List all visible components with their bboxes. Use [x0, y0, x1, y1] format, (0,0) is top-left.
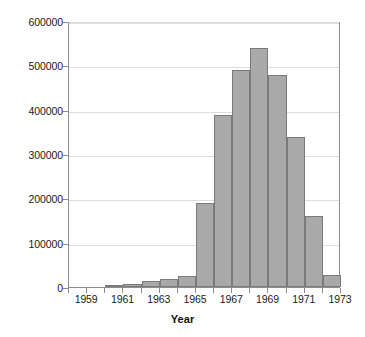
gridline-400000: [69, 112, 339, 113]
y-tick-label: 300000: [29, 150, 63, 161]
bar-chart: 0100000200000300000400000500000600000 19…: [0, 0, 365, 337]
bar-1969: [268, 75, 286, 287]
bar-1967: [232, 70, 250, 287]
x-tick-mark: [213, 288, 214, 293]
bar-1960: [105, 285, 123, 287]
x-tick-label: 1963: [147, 294, 170, 305]
x-axis-title: Year: [0, 313, 365, 325]
x-tick-label: 1965: [183, 294, 206, 305]
x-tick-mark: [177, 288, 178, 293]
y-tick-label: 500000: [29, 61, 63, 72]
x-tick-mark: [249, 288, 250, 293]
bar-1965: [196, 203, 214, 287]
y-tick-label: 200000: [29, 194, 63, 205]
bar-1968: [250, 48, 268, 287]
x-tick-label: 1969: [256, 294, 279, 305]
x-tick-mark: [286, 288, 287, 293]
x-tick-label: 1961: [111, 294, 134, 305]
x-tick-label: 1973: [329, 294, 352, 305]
x-tick-mark: [322, 288, 323, 293]
plot-area: [68, 22, 340, 288]
bar-1971: [305, 216, 323, 287]
y-tick-label: 400000: [29, 106, 63, 117]
y-tick-label: 100000: [29, 239, 63, 250]
x-tick-mark: [141, 288, 142, 293]
x-tick-label: 1971: [292, 294, 315, 305]
bar-1964: [178, 276, 196, 287]
x-tick-label: 1959: [75, 294, 98, 305]
bar-1963: [160, 279, 178, 287]
x-tick-mark: [68, 288, 69, 293]
y-tick-label: 600000: [29, 17, 63, 28]
gridline-600000: [69, 23, 339, 24]
bar-1966: [214, 115, 232, 287]
gridline-500000: [69, 67, 339, 68]
bar-1961: [123, 284, 141, 287]
bar-1972: [323, 275, 341, 287]
bar-1962: [142, 281, 160, 287]
x-tick-mark: [104, 288, 105, 293]
bar-1970: [287, 137, 305, 287]
x-tick-label: 1967: [220, 294, 243, 305]
